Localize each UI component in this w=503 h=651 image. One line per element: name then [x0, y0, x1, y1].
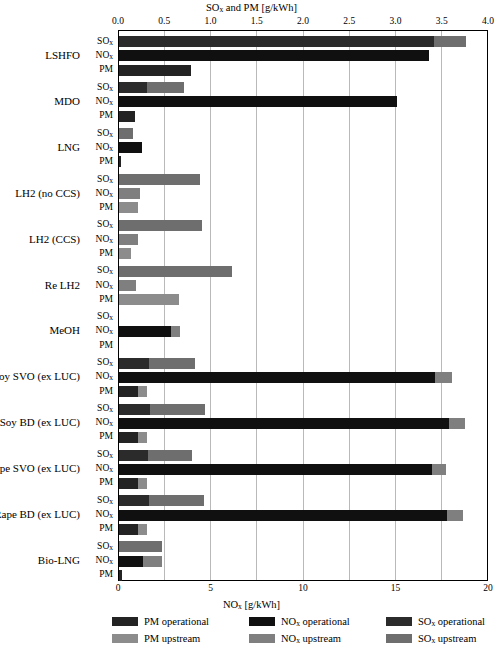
series-label-nox: NOx	[96, 509, 113, 520]
legend-swatch-pm-upstream	[112, 634, 138, 643]
segment-upstream	[119, 128, 133, 139]
bar-lng-nox	[119, 142, 489, 153]
category-label-soy-svo-ex-luc: Soy SVO (ex LUC)	[0, 370, 80, 382]
series-label-nox: NOx	[96, 417, 113, 428]
series-label-pm: PM	[99, 523, 113, 533]
bottom-axis-tick-10: 10	[298, 583, 308, 593]
legend-item-sox-operational: SOx operational	[386, 614, 485, 629]
category-label-lh2-no-ccs: LH2 (no CCS)	[15, 187, 80, 199]
top-axis-tick-4.0: 4.0	[482, 16, 494, 26]
series-label-nox: NOx	[96, 49, 113, 60]
segment-upstream	[147, 82, 184, 93]
series-label-nox: NOx	[96, 371, 113, 382]
series-label-pm: PM	[99, 431, 113, 441]
series-label-nox: NOx	[96, 463, 113, 474]
category-label-bio-lng: Bio-LNG	[38, 554, 80, 566]
bottom-axis-tick-15: 15	[391, 583, 401, 593]
legend-swatch-sox-upstream	[386, 634, 412, 643]
segment-upstream	[435, 372, 452, 383]
bar-bio-lng-nox	[119, 556, 489, 567]
bar-rape-bd-ex-luc-pm	[119, 524, 489, 535]
segment-upstream	[119, 541, 162, 552]
series-label-nox: NOx	[96, 95, 113, 106]
series-label-sox: SOx	[97, 81, 113, 92]
segment-operational	[119, 142, 142, 153]
series-label-nox: NOx	[96, 141, 113, 152]
legend-label: PM operational	[144, 616, 209, 627]
bottom-axis-title: NOx [g/kWh]	[0, 599, 503, 611]
series-label-sox: SOx	[97, 219, 113, 230]
segment-upstream	[138, 386, 147, 397]
category-label-rape-svo-ex-luc: Rape SVO (ex LUC)	[0, 462, 80, 474]
top-axis-tick-0.0: 0.0	[112, 16, 124, 26]
series-label-sox: SOx	[97, 540, 113, 551]
series-label-nox: NOx	[96, 279, 113, 290]
segment-operational	[119, 36, 434, 47]
bar-re-lh2-pm	[119, 294, 489, 305]
series-label-nox: NOx	[96, 187, 113, 198]
segment-upstream	[119, 220, 202, 231]
bottom-axis-tick-5: 5	[208, 583, 213, 593]
chart-legend: PM operationalPM upstreamNOx operational…	[112, 614, 503, 648]
bottom-axis-tick-0: 0	[116, 583, 121, 593]
segment-upstream	[119, 174, 200, 185]
segment-upstream	[150, 404, 205, 415]
bar-mdo-nox	[119, 96, 489, 107]
segment-upstream	[119, 294, 179, 305]
segment-upstream	[119, 280, 136, 291]
bar-soy-bd-ex-luc-sox	[119, 404, 489, 415]
segment-operational	[119, 111, 135, 122]
bar-lshfo-nox	[119, 50, 489, 61]
bar-soy-bd-ex-luc-nox	[119, 418, 489, 429]
segment-operational	[119, 404, 150, 415]
segment-operational	[119, 524, 138, 535]
segment-operational	[119, 495, 149, 506]
bar-lshfo-pm	[119, 65, 489, 76]
series-label-pm: PM	[99, 477, 113, 487]
plot-area	[118, 30, 488, 581]
top-axis-tick-1.0: 1.0	[205, 16, 217, 26]
top-axis-tick-2.0: 2.0	[297, 16, 309, 26]
series-label-pm: PM	[99, 569, 113, 579]
segment-operational	[119, 432, 138, 443]
segment-upstream	[434, 36, 466, 47]
bar-lh2-ccs-nox	[119, 234, 489, 245]
segment-upstream	[138, 524, 147, 535]
legend-label: SOx upstream	[418, 633, 476, 645]
segment-operational	[119, 326, 171, 337]
bar-rape-bd-ex-luc-sox	[119, 495, 489, 506]
bar-lh2-no-ccs-sox	[119, 174, 489, 185]
series-label-nox: NOx	[96, 325, 113, 336]
bar-lng-pm	[119, 156, 489, 167]
segment-operational	[119, 450, 148, 461]
legend-swatch-nox-upstream	[249, 634, 275, 643]
category-label-lng: LNG	[57, 141, 80, 153]
legend-label: PM upstream	[144, 633, 200, 644]
top-axis-tick-3.0: 3.0	[390, 16, 402, 26]
segment-upstream	[449, 418, 465, 429]
series-label-sox: SOx	[97, 403, 113, 414]
segment-operational	[119, 510, 447, 521]
bar-meoh-pm	[119, 340, 489, 351]
bar-lh2-ccs-pm	[119, 248, 489, 259]
top-axis-tick-0.5: 0.5	[158, 16, 170, 26]
segment-operational	[119, 358, 149, 369]
bar-soy-bd-ex-luc-pm	[119, 432, 489, 443]
segment-operational	[119, 478, 138, 489]
segment-operational	[119, 570, 122, 581]
series-label-pm: PM	[99, 386, 113, 396]
segment-upstream	[138, 478, 147, 489]
bar-meoh-sox	[119, 312, 489, 323]
segment-operational	[119, 464, 432, 475]
series-label-pm: PM	[99, 64, 113, 74]
top-axis-tick-2.5: 2.5	[343, 16, 355, 26]
series-label-sox: SOx	[97, 311, 113, 322]
bar-lng-sox	[119, 128, 489, 139]
series-label-sox: SOx	[97, 127, 113, 138]
chart-root: SOx and PM [g/kWh] 0.00.51.01.52.02.53.0…	[0, 0, 503, 651]
segment-operational	[119, 372, 435, 383]
category-label-re-lh2: Re LH2	[45, 279, 80, 291]
bar-soy-svo-ex-luc-pm	[119, 386, 489, 397]
legend-swatch-nox-operational	[249, 617, 275, 626]
bar-lh2-no-ccs-pm	[119, 202, 489, 213]
